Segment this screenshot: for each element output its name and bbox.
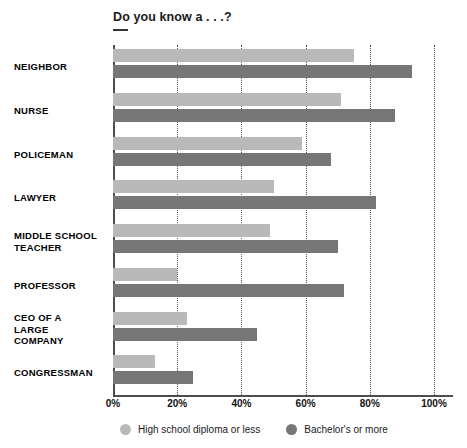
bar — [113, 93, 341, 106]
category-label: MIDDLE SCHOOL TEACHER — [14, 230, 110, 253]
legend-label: Bachelor's or more — [304, 424, 388, 435]
category-label: CONGRESSMAN — [14, 367, 110, 379]
bar-group — [113, 89, 434, 133]
chart-container: Do you know a . . .? NEIGHBORNURSEPOLICE… — [0, 0, 467, 448]
bar — [113, 328, 257, 341]
x-tick-label: 80% — [360, 398, 380, 409]
category-label: NURSE — [14, 105, 110, 117]
bar-group — [113, 176, 434, 220]
x-tick-label: 20% — [167, 398, 187, 409]
category-label: CEO OF A LARGE COMPANY — [14, 312, 110, 347]
category-label: LAWYER — [14, 192, 110, 204]
x-tick-label: 100% — [421, 398, 447, 409]
legend-swatch-circle-icon — [120, 424, 131, 435]
x-tick-label: 40% — [231, 398, 251, 409]
legend-item[interactable]: Bachelor's or more — [286, 424, 388, 435]
bar — [113, 153, 331, 166]
bar — [113, 109, 395, 122]
bar — [113, 371, 193, 384]
bar — [113, 196, 376, 209]
legend-label: High school diploma or less — [138, 424, 260, 435]
bar-group — [113, 45, 434, 89]
title-underline-rule — [113, 29, 128, 31]
bar — [113, 180, 274, 193]
chart-legend: High school diploma or lessBachelor's or… — [120, 424, 388, 435]
plot-area — [113, 45, 434, 395]
bar — [113, 312, 187, 325]
bar-rows — [113, 45, 434, 395]
bar — [113, 284, 344, 297]
bar — [113, 49, 354, 62]
bar — [113, 65, 412, 78]
bar — [113, 224, 270, 237]
bar-group — [113, 308, 434, 352]
bar — [113, 355, 155, 368]
bar — [113, 137, 302, 150]
category-axis-labels: NEIGHBORNURSEPOLICEMANLAWYERMIDDLE SCHOO… — [0, 45, 110, 395]
legend-swatch-circle-icon — [286, 424, 297, 435]
x-axis-line — [113, 395, 453, 397]
chart-header: Do you know a . . .? — [113, 10, 433, 31]
bar — [113, 268, 177, 281]
bar-group — [113, 133, 434, 177]
bar-group — [113, 264, 434, 308]
category-label: PROFESSOR — [14, 280, 110, 292]
bar — [113, 240, 338, 253]
x-axis-tick-labels: 0%20%40%60%80%100% — [113, 398, 467, 414]
category-label: NEIGHBOR — [14, 61, 110, 73]
x-tick-label: 60% — [296, 398, 316, 409]
legend-item[interactable]: High school diploma or less — [120, 424, 260, 435]
bar-group — [113, 220, 434, 264]
x-tick-label: 0% — [106, 398, 120, 409]
chart-title: Do you know a . . .? — [113, 10, 433, 24]
gridline-100% — [434, 45, 436, 395]
category-label: POLICEMAN — [14, 149, 110, 161]
bar-group — [113, 351, 434, 395]
